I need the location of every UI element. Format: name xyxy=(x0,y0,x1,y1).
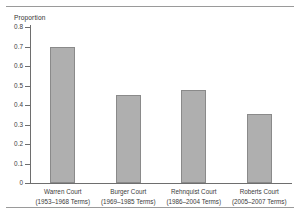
y-axis-tick-label: 0.4 xyxy=(8,101,23,108)
y-axis-tick-label: 0.3 xyxy=(8,121,23,128)
y-axis-tick-label: 0.8 xyxy=(8,23,23,30)
bar xyxy=(181,90,206,183)
bar xyxy=(50,47,75,183)
x-axis-category-name: Roberts Court xyxy=(224,187,294,197)
x-axis-line xyxy=(30,183,292,184)
y-axis-tick-label: 0 xyxy=(8,179,23,186)
x-axis-category-name: Burger Court xyxy=(93,187,163,197)
bottom-divider-rule xyxy=(6,207,294,208)
x-axis-category-label: Rehnquist Court(1986–2004 Terms) xyxy=(159,187,229,206)
x-axis-category-label: Roberts Court(2005–2007 Terms) xyxy=(224,187,294,206)
x-axis-category-label: Warren Court(1953–1968 Terms) xyxy=(28,187,98,206)
x-axis-category-term-range: (2005–2007 Terms) xyxy=(224,197,294,207)
top-divider-rule xyxy=(6,6,294,7)
bar-chart-figure: Proportion 0.80.70.60.50.40.30.20.10 War… xyxy=(0,0,300,220)
x-axis-category-label: Burger Court(1969–1985 Terms) xyxy=(93,187,163,206)
y-axis-tick-label: 0.5 xyxy=(8,82,23,89)
y-axis-tick-label: 0.7 xyxy=(8,43,23,50)
y-axis-tick-label: 0.6 xyxy=(8,62,23,69)
bar xyxy=(116,95,141,183)
y-axis-tick-label: 0.1 xyxy=(8,160,23,167)
x-axis-category-term-range: (1969–1985 Terms) xyxy=(93,197,163,207)
y-axis-title: Proportion xyxy=(14,14,45,21)
bar xyxy=(247,114,272,183)
x-axis-category-name: Warren Court xyxy=(28,187,98,197)
plot-area xyxy=(30,27,292,183)
x-axis-category-term-range: (1953–1968 Terms) xyxy=(28,197,98,207)
y-axis-tick-label: 0.2 xyxy=(8,140,23,147)
x-axis-category-name: Rehnquist Court xyxy=(159,187,229,197)
x-axis-category-term-range: (1986–2004 Terms) xyxy=(159,197,229,207)
